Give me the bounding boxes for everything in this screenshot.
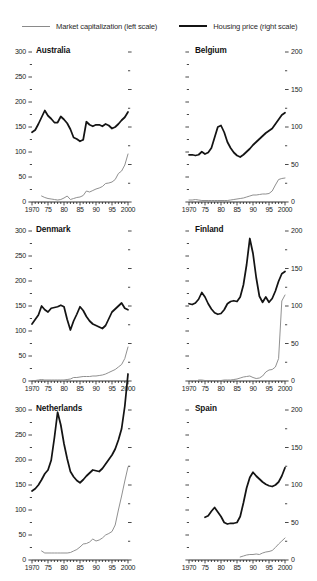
left-axis-tick-label: 50 [2,352,26,359]
x-axis-tick-label: 2000 [273,564,297,571]
left-axis-tick-label: 150 [2,123,26,130]
chart-panel-denmark: Denmark050100150200250300197075808590952… [0,223,158,402]
legend-label-market-capitalization: Market capitalization (left scale) [56,22,157,31]
x-axis-tick-label: 2000 [116,206,140,213]
market-capitalization-line-swatch [22,26,50,27]
left-axis-tick-label: 300 [2,227,26,234]
plot-area-finland [189,231,285,381]
plot-area-netherlands [32,410,128,560]
right-axis-tick-label: 50 [291,519,317,526]
right-axis-tick-label: 100 [291,302,317,309]
chart-panel-netherlands: Netherlands05010015020025030019707580859… [0,402,158,581]
left-axis-tick-label: 250 [2,431,26,438]
plot-area-australia [32,52,128,202]
right-axis-tick-label: 0 [291,198,317,205]
right-axis-tick-label: 200 [291,48,317,55]
legend-item-market-capitalization: Market capitalization (left scale) [22,22,157,31]
right-axis-tick-label: 0 [291,556,317,563]
left-axis-tick-label: 0 [2,556,26,563]
right-axis-tick-label: 150 [291,86,317,93]
left-axis-tick-label: 100 [2,148,26,155]
left-axis-tick-label: 150 [2,302,26,309]
x-axis-tick-label: 2000 [116,564,140,571]
left-axis-tick-label: 0 [2,198,26,205]
legend-label-housing-price: Housing price (right scale) [213,22,297,31]
x-axis-tick-label: 2000 [116,385,140,392]
left-axis-tick-label: 100 [2,506,26,513]
right-axis-tick-label: 200 [291,406,317,413]
chart-panel-finland: Finland050100150200197075808590952000 [159,223,317,402]
chart-legend: Market capitalization (left scale) Housi… [0,14,317,38]
right-axis-tick-label: 0 [291,377,317,384]
right-axis-tick-label: 150 [291,444,317,451]
plot-area-denmark [32,231,128,381]
left-axis-tick-label: 250 [2,252,26,259]
left-axis-tick-label: 150 [2,481,26,488]
left-axis-tick-label: 0 [2,377,26,384]
plot-area-spain [189,410,285,560]
chart-panel-australia: Australia0501001502002503001970758085909… [0,44,158,223]
right-axis-tick-label: 100 [291,123,317,130]
x-axis-tick-label: 2000 [273,385,297,392]
left-axis-tick-label: 300 [2,406,26,413]
right-axis-tick-label: 50 [291,340,317,347]
left-axis-tick-label: 300 [2,48,26,55]
housing-price-line-swatch [179,25,207,27]
left-axis-tick-label: 200 [2,277,26,284]
chart-panel-belgium: Belgium050100150200197075808590952000 [159,44,317,223]
left-axis-tick-label: 50 [2,173,26,180]
chart-panel-grid: Australia0501001502002503001970758085909… [0,44,317,581]
legend-item-housing-price: Housing price (right scale) [179,22,297,31]
x-axis-tick-label: 2000 [273,206,297,213]
left-axis-tick-label: 200 [2,456,26,463]
right-axis-tick-label: 150 [291,265,317,272]
plot-area-belgium [189,52,285,202]
left-axis-tick-label: 200 [2,98,26,105]
left-axis-tick-label: 50 [2,531,26,538]
chart-figure: Market capitalization (left scale) Housi… [0,0,317,581]
left-axis-tick-label: 100 [2,327,26,334]
chart-panel-spain: Spain050100150200197075808590952000 [159,402,317,581]
left-axis-tick-label: 250 [2,73,26,80]
right-axis-tick-label: 50 [291,161,317,168]
right-axis-tick-label: 200 [291,227,317,234]
right-axis-tick-label: 100 [291,481,317,488]
